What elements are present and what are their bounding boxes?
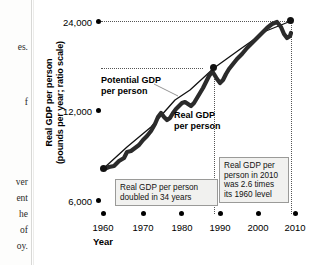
chart-figure: Real GDP per person (pounds per year; ra… bbox=[34, 0, 322, 265]
annotation-doubled-line1: Real GDP per person bbox=[120, 183, 213, 193]
annotation-ratio-line3: was 2.6 times bbox=[224, 180, 284, 190]
x-tick-dot-1970 bbox=[141, 211, 146, 216]
potential-gdp-label-line1: Potential GDP bbox=[101, 75, 161, 85]
real-gdp-label: Real GDP per person bbox=[174, 110, 221, 132]
annotation-ratio-line2: person in 2010 bbox=[224, 171, 284, 181]
annotation-doubled-line2: doubled in 34 years bbox=[120, 193, 213, 203]
x-tick-label-1960: 1960 bbox=[86, 222, 120, 233]
margin-text-fragment: es. bbox=[18, 42, 28, 52]
margin-text-fragment: ver bbox=[16, 177, 28, 187]
annotation-ratio-line4: its 1960 level bbox=[224, 190, 284, 200]
data-marker-2010 bbox=[287, 17, 294, 24]
figure-root: es. f ver ent he of oy. Real GDP per per… bbox=[0, 0, 322, 265]
real-gdp-label-line2: per person bbox=[174, 121, 221, 131]
x-tick-dot-1990 bbox=[218, 211, 223, 216]
potential-gdp-label-line2: per person bbox=[101, 86, 148, 96]
x-tick-label-1990: 1990 bbox=[203, 222, 237, 233]
x-axis-title: Year bbox=[86, 236, 120, 247]
real-gdp-label-line1: Real GDP bbox=[174, 110, 215, 120]
margin-text-fragment: f bbox=[25, 97, 28, 107]
annotation-doubled-note: Real GDP per person doubled in 34 years bbox=[115, 179, 218, 206]
margin-text-fragment: he bbox=[19, 209, 28, 219]
data-marker-1994 bbox=[210, 64, 217, 71]
page-gutter-divider bbox=[31, 0, 32, 265]
margin-text-fragment: of bbox=[20, 225, 28, 235]
margin-text-fragment: ent bbox=[16, 193, 28, 203]
x-tick-dot-1980 bbox=[179, 211, 184, 216]
x-tick-label-1970: 1970 bbox=[126, 222, 160, 233]
x-tick-dot-2000 bbox=[256, 211, 261, 216]
x-tick-label-1980: 1980 bbox=[165, 222, 199, 233]
margin-text-fragment: oy. bbox=[17, 241, 28, 251]
x-tick-dot-2010 bbox=[293, 211, 298, 216]
book-page-margin-column: es. f ver ent he of oy. bbox=[0, 0, 31, 265]
x-tick-dot-1960 bbox=[101, 211, 106, 216]
annotation-ratio-line1: Real GDP per bbox=[224, 161, 284, 171]
x-tick-label-2010: 2010 bbox=[278, 222, 312, 233]
annotation-ratio-note: Real GDP per person in 2010 was 2.6 time… bbox=[219, 157, 289, 203]
data-marker-1960 bbox=[100, 165, 107, 172]
potential-gdp-label: Potential GDP per person bbox=[101, 75, 161, 97]
x-tick-label-2000: 2000 bbox=[241, 222, 275, 233]
